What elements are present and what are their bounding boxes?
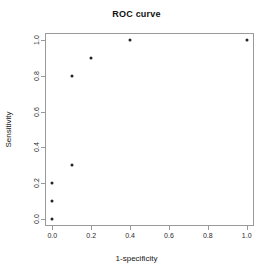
x-tick-mark: [91, 226, 92, 230]
x-tick-label: 0.8: [203, 232, 213, 239]
data-point: [70, 74, 73, 77]
x-tick-mark: [52, 226, 53, 230]
y-tick-mark: [41, 112, 45, 113]
data-point: [90, 56, 93, 59]
x-tick-label: 0.0: [47, 232, 57, 239]
data-point: [51, 182, 54, 185]
data-point: [245, 38, 248, 41]
plot-area: [45, 33, 254, 226]
y-tick-label: 0.6: [33, 105, 40, 119]
data-point: [129, 38, 132, 41]
roc-curve-figure: ROC curve 0.00.20.40.60.81.0 0.00.20.40.…: [0, 0, 273, 276]
data-point: [51, 200, 54, 203]
x-tick-label: 0.4: [125, 232, 135, 239]
y-tick-mark: [41, 219, 45, 220]
y-tick-mark: [41, 183, 45, 184]
x-tick-mark: [208, 226, 209, 230]
x-tick-mark: [247, 226, 248, 230]
y-tick-label: 0.4: [33, 140, 40, 154]
x-tick-label: 0.6: [164, 232, 174, 239]
x-tick-mark: [130, 226, 131, 230]
y-tick-label: 0.2: [33, 176, 40, 190]
y-tick-label: 0.8: [33, 69, 40, 83]
x-tick-mark: [169, 226, 170, 230]
data-point: [51, 218, 54, 221]
chart-title: ROC curve: [0, 9, 273, 19]
y-tick-label: 0.0: [33, 212, 40, 226]
y-axis-title: Sensitivity: [2, 33, 16, 226]
data-point: [70, 164, 73, 167]
y-tick-label: 1.0: [33, 33, 40, 47]
x-tick-label: 0.2: [86, 232, 96, 239]
x-axis-title: 1-specificity: [0, 254, 273, 263]
y-tick-mark: [41, 40, 45, 41]
y-tick-mark: [41, 76, 45, 77]
y-tick-mark: [41, 147, 45, 148]
x-tick-label: 1.0: [242, 232, 252, 239]
